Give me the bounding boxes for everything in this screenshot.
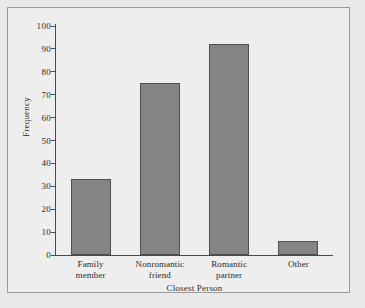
y-axis-tick-label: 10: [41, 227, 51, 237]
x-axis-title: Closest Person: [56, 283, 333, 293]
y-axis-tick-label: 80: [41, 67, 51, 77]
x-axis-category-label: Other: [264, 259, 333, 270]
x-axis-category-label: Familymember: [56, 259, 125, 281]
x-axis-category-label-line: partner: [195, 270, 264, 281]
y-axis-tick-label: 60: [41, 113, 51, 123]
x-axis-category-label-line: Other: [264, 259, 333, 270]
bars-layer: [56, 26, 333, 255]
y-axis-title: Frequency: [21, 87, 31, 147]
x-axis-category-label-line: Nonromantic: [125, 259, 194, 270]
bar: [209, 44, 249, 255]
x-axis-line: [55, 255, 333, 256]
x-axis-category-label: Nonromanticfriend: [125, 259, 194, 281]
y-axis-tick-label: 70: [41, 90, 51, 100]
y-axis-tick-label: 90: [41, 44, 51, 54]
x-axis-category-label-line: Romantic: [195, 259, 264, 270]
x-axis-category-label-line: friend: [125, 270, 194, 281]
bar: [140, 83, 180, 255]
bar: [71, 179, 111, 255]
y-axis-tick-label: 100: [37, 21, 51, 31]
y-axis-tick-labels: 0102030405060708090100: [0, 0, 51, 308]
y-axis-tick-label: 30: [41, 181, 51, 191]
x-axis-category-label-line: Family: [56, 259, 125, 270]
bar: [278, 241, 318, 255]
y-axis-tick-label: 40: [41, 158, 51, 168]
y-axis-tick-label: 20: [41, 204, 51, 214]
x-axis-category-label-line: member: [56, 270, 125, 281]
y-axis-tick-label: 50: [41, 136, 51, 146]
x-axis-category-label: Romanticpartner: [195, 259, 264, 281]
bar-chart-figure: 0102030405060708090100 Frequency Closest…: [0, 0, 365, 308]
